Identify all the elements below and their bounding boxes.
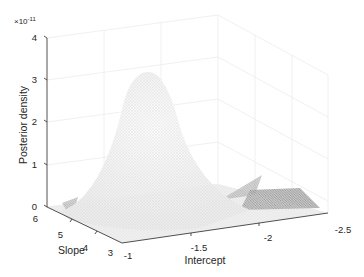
- slope-axis-label: Slope: [58, 244, 85, 256]
- surface-plot: ×10-11 4 3 2 1 0 Posterior density 6 5 4…: [0, 0, 364, 277]
- z-axis-label: Posterior density: [17, 85, 29, 164]
- intercept-tick-neg2.5: -2.5: [335, 224, 351, 235]
- z-tick-4: 4: [32, 32, 37, 43]
- slope-tick-3: 3: [108, 247, 113, 258]
- slope-tick-5: 5: [58, 229, 63, 240]
- density-surface: [47, 72, 328, 243]
- z-tick-1: 1: [32, 159, 37, 170]
- z-tick-2: 2: [32, 116, 37, 127]
- intercept-tick-neg1.5: -1.5: [191, 242, 207, 253]
- slope-tick-6: 6: [33, 213, 38, 224]
- intercept-tick-neg2: -2: [264, 232, 272, 243]
- z-axis: ×10-11 4 3 2 1 0 Posterior density: [14, 16, 37, 212]
- z-tick-3: 3: [32, 74, 37, 85]
- intercept-axis-label: Intercept: [185, 254, 226, 266]
- z-tick-0: 0: [32, 201, 37, 212]
- intercept-tick-neg1: -1: [124, 250, 132, 261]
- z-exponent: ×10-11: [14, 16, 36, 26]
